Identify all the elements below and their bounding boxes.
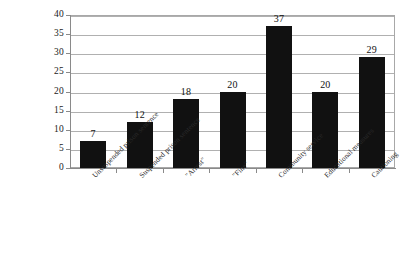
y-tick-mark-20 <box>66 92 70 93</box>
gridline-30 <box>71 54 394 55</box>
x-tick-mark <box>349 169 350 173</box>
x-tick-mark <box>209 169 210 173</box>
y-tick-label-0: 0 <box>42 163 64 173</box>
y-tick-label-15: 15 <box>42 106 64 116</box>
x-tick-mark <box>256 169 257 173</box>
bar-value-label: 37 <box>259 14 299 24</box>
y-axis-tick-labels: 4035302520151050 <box>40 0 64 264</box>
y-tick-label-40: 40 <box>42 10 64 20</box>
y-tick-mark-40 <box>66 15 70 16</box>
gridline-25 <box>71 73 394 74</box>
y-tick-label-10: 10 <box>42 125 64 135</box>
bar-chart-figure: 4035302520151050 7121820372029 Unsuspend… <box>0 0 412 264</box>
y-tick-mark-30 <box>66 53 70 54</box>
y-tick-mark-15 <box>66 111 70 112</box>
y-tick-mark-10 <box>66 130 70 131</box>
bar-value-label: 18 <box>166 87 206 97</box>
y-tick-label-35: 35 <box>42 29 64 39</box>
y-tick-mark-25 <box>66 72 70 73</box>
gridline-35 <box>71 35 394 36</box>
y-tick-label-30: 30 <box>42 48 64 58</box>
bar <box>266 26 292 168</box>
bar <box>312 92 338 169</box>
bar <box>220 92 246 169</box>
y-tick-label-20: 20 <box>42 87 64 97</box>
bar-value-label: 20 <box>305 80 345 90</box>
y-tick-mark-35 <box>66 34 70 35</box>
y-tick-mark-0 <box>66 168 70 169</box>
y-axis-line <box>70 15 71 169</box>
y-tick-label-5: 5 <box>42 144 64 154</box>
x-tick-mark <box>302 169 303 173</box>
bar-value-label: 29 <box>352 45 392 55</box>
bar-value-label: 7 <box>73 129 113 139</box>
y-tick-label-25: 25 <box>42 67 64 77</box>
bar <box>359 57 385 168</box>
y-tick-mark-5 <box>66 149 70 150</box>
x-tick-mark <box>116 169 117 173</box>
gridline-40 <box>71 16 394 17</box>
bar-value-label: 20 <box>213 80 253 90</box>
x-tick-mark <box>163 169 164 173</box>
